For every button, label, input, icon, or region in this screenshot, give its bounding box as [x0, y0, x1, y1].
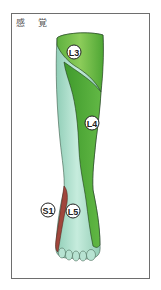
label-L4: L4: [85, 116, 99, 130]
label-L3: L3: [67, 45, 81, 59]
label-S1: S1: [41, 203, 55, 217]
svg-text:S1: S1: [42, 206, 53, 216]
svg-text:L3: L3: [69, 48, 80, 58]
svg-text:L5: L5: [68, 207, 79, 217]
leg-dermatome-illustration: L3 L4 S1 L5: [0, 0, 161, 290]
label-L5: L5: [66, 204, 80, 218]
svg-text:L4: L4: [87, 119, 98, 129]
